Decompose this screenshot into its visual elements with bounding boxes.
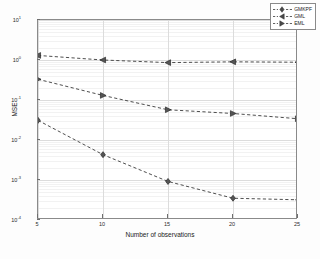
figure-canvas: 10110010-110-210-310-4510152025 Number o… [0, 0, 320, 259]
data-point-marker [38, 53, 41, 59]
data-point-marker [230, 111, 236, 117]
x-tick-label: 15 [164, 221, 170, 227]
data-point-marker [231, 195, 236, 201]
x-tick-mark [102, 214, 103, 218]
y-tick-mark [37, 139, 40, 140]
y-tick-label: 100 [13, 55, 21, 63]
x-tick-mark [167, 214, 168, 218]
y-tick-mark [37, 179, 40, 180]
legend-marker-right-triangle-icon [273, 20, 293, 27]
x-tick-mark [37, 214, 38, 218]
x-tick-mark [232, 214, 233, 218]
x-tick-label: 5 [35, 221, 38, 227]
y-tick-mark [37, 219, 40, 220]
legend-label-0: GMKPF [293, 6, 312, 13]
series-gmkpf [38, 117, 297, 202]
data-point-marker [230, 59, 236, 65]
legend-item-2[interactable]: EML [273, 20, 312, 27]
legend-item-0[interactable]: GMKPF [273, 6, 312, 13]
legend-marker-diamond-icon [273, 6, 293, 13]
data-point-marker [295, 116, 297, 122]
x-tick-label: 25 [294, 221, 300, 227]
data-point-marker [166, 178, 171, 184]
y-tick-mark [37, 19, 40, 20]
y-tick-mark [37, 99, 40, 100]
legend-item-1[interactable]: GML [273, 13, 312, 20]
data-point-marker [165, 60, 171, 66]
data-point-marker [165, 107, 171, 113]
y-tick-label: 101 [13, 15, 21, 23]
legend-label-2: EML [293, 20, 304, 27]
y-axis-label: MSE [11, 80, 18, 140]
series-gml [38, 53, 297, 66]
x-axis-label: Number of observations [0, 231, 320, 238]
legend[interactable]: GMKPF GML EML [270, 3, 316, 30]
x-tick-label: 10 [99, 221, 105, 227]
legend-marker-left-triangle-icon [273, 13, 293, 20]
series-line [38, 120, 297, 199]
series-line [38, 79, 297, 118]
x-tick-mark [297, 214, 298, 218]
data-point-marker [295, 59, 297, 65]
data-point-marker [38, 76, 41, 82]
data-point-marker [100, 57, 106, 63]
data-point-marker [101, 152, 106, 158]
data-point-marker [296, 197, 297, 203]
data-point-marker [100, 93, 106, 99]
y-tick-label: 10-4 [11, 215, 21, 223]
x-tick-label: 20 [229, 221, 235, 227]
series-eml [38, 76, 297, 121]
y-tick-mark [37, 59, 40, 60]
legend-label-1: GML [293, 13, 305, 20]
plot-area [37, 19, 297, 219]
data-point-marker [38, 117, 40, 123]
y-tick-label: 10-3 [11, 175, 21, 183]
data-curves-layer [38, 20, 297, 219]
